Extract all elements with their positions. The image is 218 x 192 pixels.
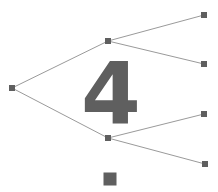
leaf-node-3[interactable] [201,111,207,117]
leaf-node-1[interactable] [201,12,207,18]
root-node[interactable] [9,85,15,91]
detached-square[interactable] [104,173,117,186]
edges-group [12,15,205,164]
nodes-group [9,12,208,186]
leaf-node-2[interactable] [201,61,207,67]
lower-branch-node[interactable] [105,135,111,141]
tree-edge [108,15,204,41]
tree-edge [108,114,204,138]
upper-branch-node[interactable] [105,38,111,44]
leaf-node-4[interactable] [202,161,208,167]
tree-edge [12,41,108,88]
tree-edge [108,138,205,164]
diagram-canvas: 4 [0,0,218,192]
tree-edge [12,88,108,138]
tree-graphic [0,0,218,192]
tree-edge [108,41,204,64]
